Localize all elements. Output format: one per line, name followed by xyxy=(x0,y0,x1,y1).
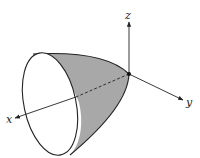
y-axis-label: y xyxy=(185,96,193,109)
z-axis-label: z xyxy=(124,9,131,22)
y-axis xyxy=(129,74,183,100)
x-axis-label: x xyxy=(6,113,13,126)
origin-point xyxy=(127,72,131,76)
paraboloid-diagram: z y x xyxy=(0,0,200,158)
